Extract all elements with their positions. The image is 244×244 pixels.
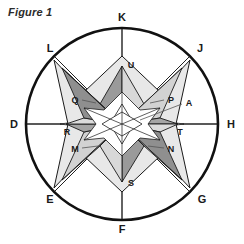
inner-label-a: A [186,98,193,108]
inner-label-q: Q [71,95,78,105]
inner-label-m: M [71,144,79,154]
inner-label-r: R [64,127,71,137]
outer-label-l: L [47,42,54,54]
inner-label-n: N [168,144,175,154]
outer-label-e: E [46,193,53,205]
inner-label-u: U [128,60,135,70]
outer-label-d: D [10,118,18,130]
outer-label-f: F [119,223,126,235]
outer-label-h: H [227,118,235,130]
inner-label-s: S [128,178,134,188]
inner-label-t: T [177,127,183,137]
inner-label-p: P [168,95,174,105]
outer-label-g: G [198,193,207,205]
figure-container: Figure 1 [0,0,244,244]
outer-label-k: K [118,11,126,23]
compass-rose-diagram: K J H G F E D L U Q P A R T M N S [0,0,244,244]
outer-label-j: J [197,42,203,54]
